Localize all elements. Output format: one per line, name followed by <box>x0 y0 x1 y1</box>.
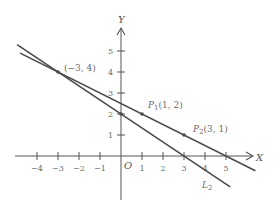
y-tick-label: 2 <box>108 110 113 119</box>
x-tick-label: −4 <box>31 164 43 173</box>
point-marker <box>140 112 144 116</box>
x-tick-label: 3 <box>181 164 186 173</box>
x-tick-label: −3 <box>52 164 64 173</box>
point-marker <box>56 70 60 74</box>
p2-coords: (3, 1) <box>204 124 228 134</box>
y-axis-label: Y <box>118 14 126 25</box>
y-tick-label: 4 <box>108 68 113 77</box>
x-tick-label: 1 <box>139 164 144 173</box>
point-marker <box>182 133 186 137</box>
l2-sub: 2 <box>208 184 212 192</box>
origin-label: O <box>124 160 132 171</box>
axes: −4−3−2−11234512345 <box>15 28 253 200</box>
x-tick-label: 2 <box>160 164 165 173</box>
line-label-l2: L2 <box>201 180 212 192</box>
y-tick-label: 5 <box>108 47 113 56</box>
p1-coords: (1, 2) <box>159 100 183 110</box>
coordinate-plane: −4−3−2−11234512345 (−3, 4) P1(1, 2) P2(3… <box>0 0 278 211</box>
x-tick-label: −1 <box>94 164 106 173</box>
point-marker <box>119 112 123 116</box>
x-tick-label: 5 <box>223 164 228 173</box>
x-tick-label: −2 <box>73 164 85 173</box>
x-axis-label: X <box>255 152 264 163</box>
point-label-p1: P1(1, 2) <box>147 100 183 112</box>
point-label-p2: P2(3, 1) <box>192 124 228 136</box>
point-label-intersection: (−3, 4) <box>64 63 96 73</box>
l2-main: L <box>201 180 208 190</box>
y-tick-label: 1 <box>108 131 113 140</box>
